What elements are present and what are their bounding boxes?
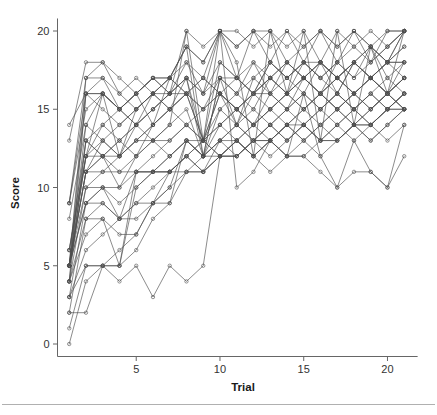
- series-subject-20: [68, 29, 406, 205]
- x-tick-label: 15: [298, 363, 310, 375]
- series-subject-17: [68, 139, 406, 315]
- y-tick-label: 20: [37, 25, 49, 37]
- x-axis-title: Trial: [231, 381, 255, 393]
- series-subject-32: [68, 29, 406, 267]
- series-subject-21: [68, 29, 406, 267]
- series-line: [69, 141, 404, 313]
- y-tick-label: 10: [37, 182, 49, 194]
- series-line: [69, 62, 404, 265]
- x-tick-label: 20: [381, 363, 393, 375]
- series-line: [69, 31, 404, 203]
- series-line: [69, 78, 404, 281]
- series-line: [69, 125, 404, 297]
- y-tick-label: 15: [37, 103, 49, 115]
- y-axis-title: Score: [9, 177, 21, 209]
- series-line: [69, 47, 404, 344]
- series-line: [69, 78, 404, 281]
- x-tick-label: 5: [133, 363, 139, 375]
- series-line: [69, 94, 404, 266]
- series-line: [69, 109, 404, 281]
- series-subject-13: [68, 108, 406, 284]
- series-subject-18: [68, 92, 406, 330]
- series-line: [69, 62, 404, 265]
- chart-figure: Score Trial 051015205101520: [0, 0, 437, 415]
- x-tick-label: 10: [214, 363, 226, 375]
- series-line: [69, 62, 404, 265]
- spaghetti-plot-svg: Score Trial 051015205101520: [0, 0, 437, 415]
- series-subject-31: [68, 76, 406, 314]
- y-tick-label: 5: [43, 260, 49, 272]
- series-line: [69, 31, 404, 266]
- series-line: [69, 78, 404, 313]
- series-subject-22: [68, 29, 406, 267]
- series-line: [69, 31, 404, 266]
- series-subject-19: [68, 45, 406, 346]
- series-subject-16: [68, 123, 406, 299]
- series-layer: [68, 29, 406, 345]
- series-line: [69, 94, 404, 266]
- y-tick-label: 0: [43, 338, 49, 350]
- series-line: [69, 31, 404, 266]
- series-line: [69, 31, 404, 266]
- series-line: [69, 94, 404, 329]
- series-subject-34: [68, 29, 406, 267]
